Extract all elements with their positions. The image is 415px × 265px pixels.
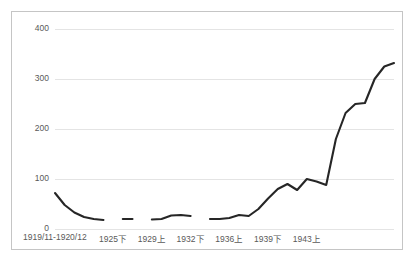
x-tick-label-0: 1919/11-1920/12 <box>23 232 87 242</box>
data-series-line <box>55 63 394 220</box>
chart-plot-area <box>12 12 404 251</box>
gridlines-group <box>55 30 394 230</box>
chart-container: 0100200300400 1919/11-1920/121925下1929上1… <box>11 11 403 250</box>
y-tick-label-300: 300 <box>15 73 49 83</box>
x-tick-label-4: 1936上 <box>215 232 243 244</box>
x-tick-label-1: 1925下 <box>99 232 127 244</box>
y-tick-label-100: 100 <box>15 173 49 183</box>
x-tick-label-2: 1929上 <box>138 232 166 244</box>
x-tick-label-6: 1943上 <box>293 232 321 244</box>
x-tick-label-3: 1932下 <box>177 232 205 244</box>
y-tick-label-200: 200 <box>15 123 49 133</box>
x-tick-label-5: 1939下 <box>254 232 282 244</box>
y-tick-label-400: 400 <box>15 23 49 33</box>
